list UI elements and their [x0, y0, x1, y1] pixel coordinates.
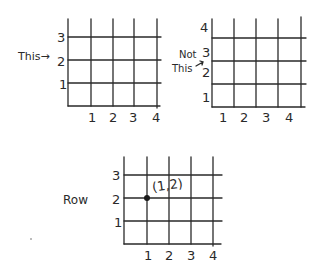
caption-this: This→: [17, 50, 50, 63]
y-label: 3: [57, 30, 65, 45]
y-label: 3: [112, 168, 120, 183]
point-marker: [144, 195, 150, 201]
x-label: 3: [187, 248, 195, 263]
y-label: 1: [114, 215, 122, 230]
x-label: 1: [219, 110, 227, 125]
y-label: 2: [57, 54, 65, 69]
caption-this: This: [171, 63, 192, 74]
x-label: 4: [285, 110, 293, 125]
speck: [30, 238, 32, 240]
caption-row: Row: [63, 193, 88, 207]
y-label: 4: [200, 20, 208, 35]
x-label: 4: [152, 110, 160, 125]
grid-diagrams: This→ 3 2 1 1 2 3 4 Not This 4 3 2 1 1 2…: [0, 0, 320, 268]
x-label: 1: [144, 248, 152, 263]
x-label: 2: [240, 110, 248, 125]
y-label: 2: [202, 65, 210, 80]
x-label: 3: [262, 110, 270, 125]
x-label: 2: [109, 110, 117, 125]
y-label: 3: [202, 45, 210, 60]
point-label: (1,2): [151, 176, 184, 195]
y-label: 2: [112, 192, 120, 207]
caption-not: Not: [179, 49, 197, 60]
grid-not-this: [196, 17, 306, 107]
y-label: 1: [202, 90, 210, 105]
y-label: 1: [59, 77, 67, 92]
grid-row: [124, 157, 222, 246]
x-label: 2: [165, 248, 173, 263]
x-label: 3: [129, 110, 137, 125]
x-label: 1: [88, 110, 96, 125]
x-label: 4: [209, 248, 217, 263]
grid-this: [68, 19, 161, 108]
